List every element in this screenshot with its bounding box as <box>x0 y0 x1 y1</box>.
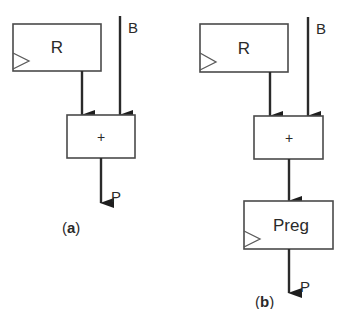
input-b-b-label: B <box>316 20 326 37</box>
register-r-b: R <box>200 24 288 72</box>
caption-b: (b) <box>255 293 274 309</box>
output-p-b-label: P <box>300 278 310 295</box>
register-r-b-label: R <box>238 39 250 58</box>
input-b-a-label: B <box>128 19 138 36</box>
register-r-a-label: R <box>51 38 63 57</box>
adder-b-label: + <box>285 130 293 146</box>
diagram-canvas: R B + P (a) R B + <box>0 0 340 309</box>
register-preg-label: Preg <box>273 216 309 235</box>
register-r-a: R <box>13 24 101 71</box>
adder-a: + <box>67 115 135 158</box>
caption-a: (a) <box>62 219 80 236</box>
adder-b: + <box>254 116 323 159</box>
register-preg: Preg <box>244 201 333 249</box>
adder-a-label: + <box>97 129 105 145</box>
panel-a: R B + P (a) <box>13 16 138 236</box>
panel-b: R B + Preg P (b) <box>200 17 333 309</box>
output-p-a-label: P <box>111 188 121 205</box>
